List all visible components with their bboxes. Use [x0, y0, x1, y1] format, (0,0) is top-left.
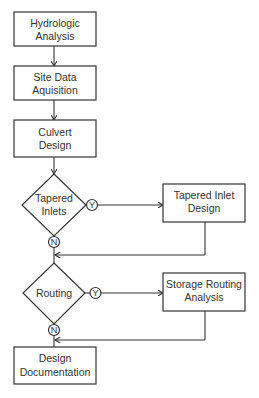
svg-text:Culvert: Culvert	[38, 126, 71, 138]
svg-text:N: N	[51, 325, 58, 335]
svg-text:Analysis: Analysis	[35, 30, 74, 42]
svg-text:Tapered: Tapered	[35, 192, 73, 204]
svg-text:Design: Design	[39, 352, 72, 364]
node-culvert-design: Culvert Design	[14, 120, 96, 157]
node-storage-routing-analysis: Storage Routing Analysis	[163, 273, 245, 311]
svg-text:Site Data: Site Data	[33, 71, 76, 83]
node-design-documentation: Design Documentation	[14, 347, 96, 384]
svg-text:Routing: Routing	[36, 287, 72, 299]
node-hydrologic-analysis: Hydrologic Analysis	[14, 12, 96, 46]
svg-text:Storage Routing: Storage Routing	[166, 278, 242, 290]
svg-text:Design: Design	[188, 202, 221, 214]
svg-text:Hydrologic: Hydrologic	[30, 17, 80, 29]
svg-text:Design: Design	[39, 139, 72, 151]
yes-marker: Y	[85, 288, 101, 299]
svg-text:Y: Y	[89, 200, 95, 210]
svg-text:N: N	[51, 237, 58, 247]
svg-text:Tapered Inlet: Tapered Inlet	[174, 189, 235, 201]
svg-text:Documentation: Documentation	[20, 366, 91, 378]
svg-text:Analysis: Analysis	[184, 291, 223, 303]
yes-marker: Y	[86, 200, 98, 211]
flowchart: Hydrologic Analysis Site Data Aquisition…	[0, 0, 259, 398]
decision-routing: Routing	[23, 263, 85, 324]
decision-tapered-inlets: Tapered Inlets	[22, 174, 86, 236]
svg-text:Inlets: Inlets	[41, 205, 66, 217]
svg-text:Y: Y	[92, 288, 98, 298]
node-site-data-aquisition: Site Data Aquisition	[14, 66, 96, 100]
no-marker: N	[49, 325, 60, 336]
svg-text:Aquisition: Aquisition	[32, 84, 78, 96]
no-marker: N	[49, 236, 60, 248]
node-tapered-inlet-design: Tapered Inlet Design	[163, 184, 245, 222]
